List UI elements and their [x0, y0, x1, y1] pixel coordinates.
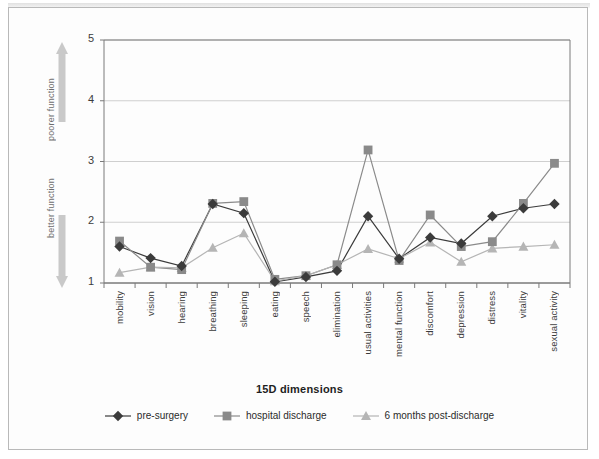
triangle-marker-icon — [353, 410, 379, 422]
data-point-marker — [146, 263, 155, 272]
x-axis-title: 15D dimensions — [0, 383, 599, 395]
chart-legend: pre-surgeryhospital discharge6 months po… — [0, 410, 599, 422]
data-point-marker — [456, 257, 466, 266]
legend-label: pre-surgery — [137, 410, 188, 422]
better-function-arrow-icon — [56, 215, 68, 288]
data-point-marker — [549, 240, 559, 249]
square-marker-icon — [214, 410, 240, 422]
x-tick-label-discomfort: discomfort — [424, 291, 435, 336]
diamond-marker-icon — [105, 410, 131, 422]
direction-arrows-group — [56, 42, 68, 288]
series-markers-group — [114, 146, 559, 287]
poorer-function-arrow-icon — [56, 42, 68, 122]
x-tick-label-eating: eating — [269, 291, 280, 317]
data-point-marker — [239, 228, 249, 237]
data-point-marker — [488, 237, 497, 246]
data-point-marker — [145, 253, 155, 263]
legend-label: 6 months post-discharge — [385, 410, 495, 422]
x-tick-label-vitality: vitality — [517, 291, 528, 318]
data-point-marker — [239, 197, 248, 206]
x-tick-label-sexual-activity: sexual activity — [548, 291, 559, 352]
x-tick-label-depression: depression — [455, 291, 466, 338]
x-tick-label-elimination: elimination — [331, 291, 342, 338]
legend-item-6-months-post-discharge[interactable]: 6 months post-discharge — [353, 410, 495, 422]
data-point-marker — [425, 232, 435, 242]
y-tick-label: 3 — [80, 154, 94, 166]
data-point-marker — [364, 146, 373, 155]
x-tick-label-mental-function: mental function — [393, 291, 404, 357]
y-tick-label: 1 — [80, 275, 94, 287]
x-tick-label-mobility: mobility — [114, 291, 125, 324]
data-point-marker — [426, 211, 435, 220]
x-tick-marks-group — [104, 283, 570, 288]
better-function-annotation: better function — [46, 178, 57, 238]
legend-item-pre-surgery[interactable]: pre-surgery — [105, 410, 188, 422]
legend-item-hospital-discharge[interactable]: hospital discharge — [214, 410, 327, 422]
poorer-function-annotation: poorer function — [46, 78, 57, 141]
gridlines-group — [104, 40, 570, 283]
data-point-marker — [363, 211, 373, 221]
x-tick-label-usual-activities: usual activities — [362, 291, 373, 354]
x-tick-label-hearing: hearing — [176, 291, 187, 323]
data-point-marker — [549, 199, 559, 209]
x-tick-label-vision: vision — [145, 291, 156, 316]
x-tick-label-distress: distress — [486, 291, 497, 325]
y-tick-label: 4 — [80, 93, 94, 105]
x-tick-label-speech: speech — [300, 291, 311, 322]
data-point-marker — [363, 244, 373, 253]
x-tick-label-sleeping: sleeping — [238, 291, 249, 327]
y-tick-label: 5 — [80, 32, 94, 44]
x-tick-label-breathing: breathing — [207, 291, 218, 332]
legend-label: hospital discharge — [246, 410, 327, 422]
data-point-marker — [208, 243, 218, 252]
y-tick-label: 2 — [80, 214, 94, 226]
chart-page: 12345 mobilityvisionhearingbreathingslee… — [0, 0, 599, 459]
data-point-marker — [550, 159, 559, 168]
